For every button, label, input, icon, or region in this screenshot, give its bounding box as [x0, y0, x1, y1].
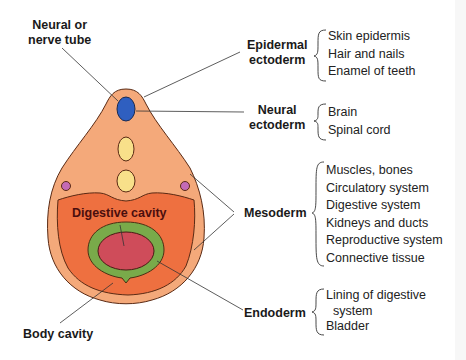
list-epidermal-derivatives: Skin epidermis Hair and nails Enamel of … [328, 28, 416, 81]
leader-neural-ectoderm [136, 111, 244, 112]
label-epidermal-ectoderm: Epidermal ectoderm [247, 38, 307, 68]
list-item: Reproductive system [326, 232, 443, 250]
list-item: Lining of digestive [326, 288, 426, 304]
brace-endoderm [312, 289, 324, 335]
list-item: Kidneys and ducts [326, 215, 443, 233]
brace-neural [314, 104, 326, 140]
leader-neural-tube [62, 48, 118, 101]
neural-tube [117, 97, 135, 121]
list-item: Spinal cord [328, 122, 391, 140]
digestive-cavity [98, 232, 154, 270]
brace-epidermal [314, 30, 326, 81]
list-item: Connective tissue [326, 250, 443, 268]
vessel-right [181, 182, 190, 191]
list-item: Digestive system [326, 197, 443, 215]
label-line: Endoderm [244, 306, 306, 321]
leader-epidermal-ectoderm [144, 52, 240, 97]
label-line: Neural [249, 103, 305, 118]
list-endoderm-derivatives: Lining of digestive system Bladder [326, 288, 426, 335]
list-item: Muscles, bones [326, 162, 443, 180]
vessel-left [62, 182, 71, 191]
label-line: Epidermal [247, 38, 307, 53]
list-neural-derivatives: Brain Spinal cord [328, 104, 391, 139]
list-item: Enamel of teeth [328, 63, 416, 81]
list-item: Bladder [326, 319, 426, 335]
label-neural-tube: Neural or nerve tube [28, 18, 91, 48]
label-line: ectoderm [247, 53, 307, 68]
label-endoderm: Endoderm [244, 306, 306, 321]
label-line: nerve tube [28, 33, 91, 48]
label-mesoderm: Mesoderm [244, 206, 307, 221]
list-item: Skin epidermis [328, 28, 416, 46]
label-line: ectoderm [249, 118, 305, 133]
brace-mesoderm [312, 162, 324, 266]
list-item: Circulatory system [326, 180, 443, 198]
label-neural-ectoderm: Neural ectoderm [249, 103, 305, 133]
list-mesoderm-derivatives: Muscles, bones Circulatory system Digest… [326, 162, 443, 267]
label-body-cavity: Body cavity [23, 327, 93, 342]
notochord-oval-upper [118, 137, 134, 161]
list-item: system [326, 304, 426, 320]
label-digestive-cavity: Digestive cavity [72, 206, 167, 220]
list-item: Brain [328, 104, 391, 122]
list-item: Hair and nails [328, 46, 416, 64]
label-line: Mesoderm [244, 206, 307, 221]
label-line: Neural or [28, 18, 91, 33]
notochord-oval-lower [117, 170, 135, 192]
